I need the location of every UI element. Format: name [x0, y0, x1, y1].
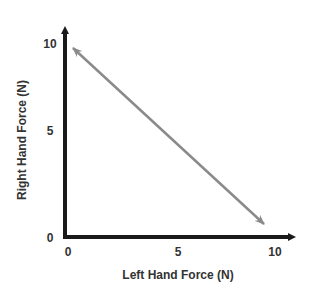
y-tick-5: 5: [47, 124, 54, 138]
chart: 10 5 0 0 5 10 Left Hand Force (N) Right …: [0, 0, 315, 294]
x-tick-0: 0: [65, 245, 72, 259]
y-axis-label: Right Hand Force (N): [15, 80, 29, 200]
x-tick-10: 10: [268, 245, 282, 259]
x-tick-5: 5: [175, 245, 182, 259]
y-tick-0: 0: [47, 231, 54, 245]
x-axis-label: Left Hand Force (N): [122, 268, 233, 282]
y-tick-10: 10: [43, 37, 57, 51]
force-line: [73, 48, 264, 224]
